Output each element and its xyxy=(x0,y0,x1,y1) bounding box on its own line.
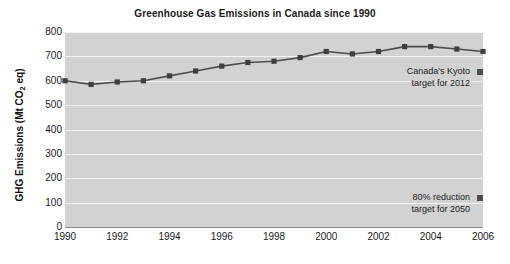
chart-container: Greenhouse Gas Emissions in Canada since… xyxy=(0,0,510,264)
data-point-marker xyxy=(376,49,381,54)
x-tick-label: 1992 xyxy=(97,232,137,242)
data-point-marker xyxy=(245,60,250,65)
data-point-marker xyxy=(350,51,355,56)
data-point-marker xyxy=(454,46,459,51)
data-point-marker xyxy=(324,49,329,54)
data-point-marker xyxy=(89,82,94,87)
x-tick-label: 2006 xyxy=(463,232,503,242)
x-tick-label: 1994 xyxy=(150,232,190,242)
annotation-kyoto-target: Canada's Kyoto target for 2012 xyxy=(320,66,470,89)
kyoto-target-marker xyxy=(477,69,483,75)
data-point-marker xyxy=(428,44,433,49)
annotation-kyoto-line2: target for 2012 xyxy=(320,78,470,90)
data-point-marker xyxy=(193,68,198,73)
annotation-reduction-target: 80% reduction target for 2050 xyxy=(320,192,470,215)
data-series-layer xyxy=(0,0,510,264)
data-point-marker xyxy=(62,78,67,83)
x-tick-label: 2000 xyxy=(306,232,346,242)
data-point-marker xyxy=(115,79,120,84)
data-point-marker xyxy=(141,78,146,83)
data-point-marker xyxy=(402,44,407,49)
x-tick-label: 1998 xyxy=(254,232,294,242)
data-point-marker xyxy=(219,64,224,69)
x-tick-label: 1990 xyxy=(45,232,85,242)
x-tick-label: 2002 xyxy=(359,232,399,242)
x-tick-label: 2004 xyxy=(411,232,451,242)
reduction-target-marker xyxy=(477,195,483,201)
x-tick-label: 1996 xyxy=(202,232,242,242)
data-point-marker xyxy=(167,73,172,78)
annotation-reduction-line2: target for 2050 xyxy=(320,204,470,216)
data-point-marker xyxy=(298,55,303,60)
annotation-reduction-line1: 80% reduction xyxy=(320,192,470,204)
data-point-marker xyxy=(271,59,276,64)
data-point-marker xyxy=(480,49,485,54)
annotation-kyoto-line1: Canada's Kyoto xyxy=(320,66,470,78)
